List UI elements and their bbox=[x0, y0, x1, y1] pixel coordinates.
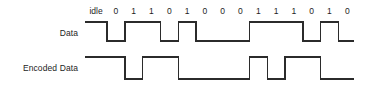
timing-diagram: Data Encoded Data idle01101000111010 bbox=[0, 0, 375, 91]
encoded-data-waveform bbox=[85, 57, 354, 79]
data-waveform bbox=[85, 22, 354, 41]
waveform-canvas bbox=[0, 0, 375, 91]
